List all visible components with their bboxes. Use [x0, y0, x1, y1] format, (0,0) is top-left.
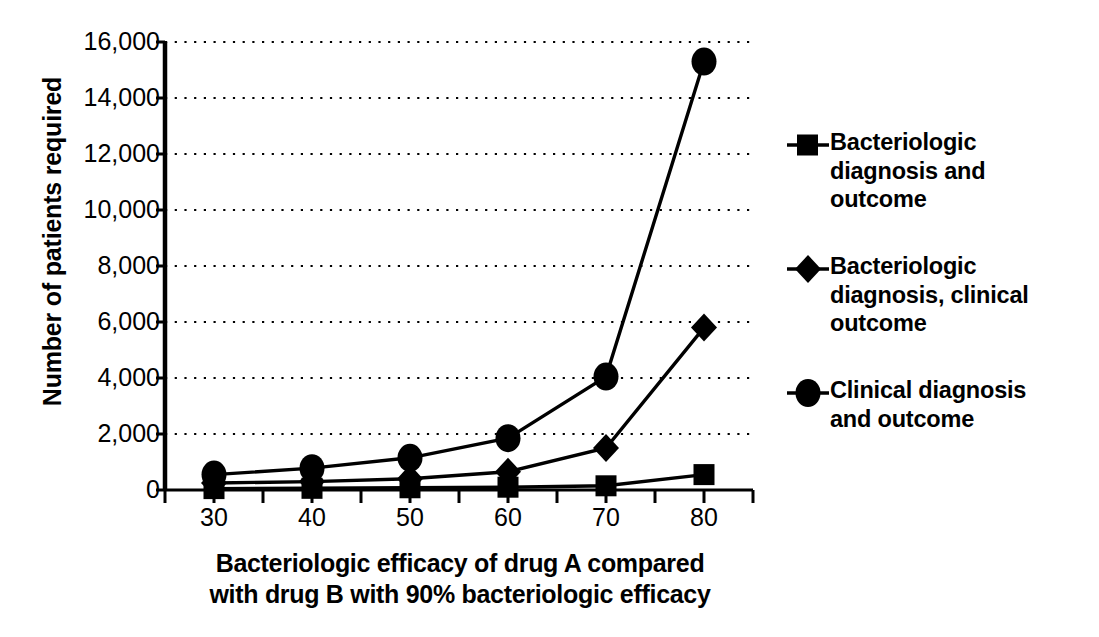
- legend-label-line: outcome: [830, 185, 985, 214]
- x-axis-title-line-2: with drug B with 90% bacteriologic effic…: [120, 579, 800, 610]
- y-axis-tick-label: 2,000: [50, 421, 160, 446]
- legend-label-line: and outcome: [830, 405, 1026, 434]
- data-point-circle: [594, 363, 619, 391]
- data-point-circle: [300, 454, 325, 482]
- y-axis-tick-label: 4,000: [50, 365, 160, 390]
- x-axis-tick-label: 50: [365, 505, 455, 530]
- legend-entry[interactable]: Bacteriologicdiagnosis, clinicaloutcome: [786, 252, 1086, 338]
- x-axis-tick-labels: 304050607080: [165, 505, 753, 541]
- legend-label-line: Bacteriologic: [830, 252, 1029, 281]
- data-point-circle: [496, 424, 521, 452]
- x-axis-title-line-1: Bacteriologic efficacy of drug A compare…: [120, 548, 800, 579]
- x-axis-title: Bacteriologic efficacy of drug A compare…: [120, 548, 800, 610]
- data-point-square: [694, 464, 715, 485]
- y-axis-tick-label: 6,000: [50, 309, 160, 334]
- y-axis-tick-labels: 02,0004,0006,0008,00010,00012,00014,0001…: [48, 0, 160, 637]
- series-lines: [214, 62, 704, 489]
- y-axis-tick-label: 10,000: [50, 197, 160, 222]
- legend-label-line: diagnosis, clinical: [830, 281, 1029, 310]
- x-axis-tick-label: 30: [169, 505, 259, 530]
- legend-marker-square-icon: [786, 130, 830, 160]
- data-point-circle: [398, 444, 423, 472]
- x-axis-tick-label: 70: [561, 505, 651, 530]
- chart-legend: Bacteriologicdiagnosis andoutcomeBacteri…: [786, 128, 1086, 471]
- plot-svg: [165, 42, 753, 490]
- y-axis-tick-label: 0: [50, 477, 160, 502]
- legend-label: Bacteriologicdiagnosis andoutcome: [830, 128, 985, 214]
- legend-label-line: outcome: [830, 309, 1029, 338]
- x-axis-tick-label: 80: [659, 505, 749, 530]
- y-axis-tick-label: 14,000: [50, 85, 160, 110]
- x-axis-tick-label: 60: [463, 505, 553, 530]
- y-axis-tick-label: 12,000: [50, 141, 160, 166]
- axis-ticks: [156, 42, 753, 503]
- legend-marker-diamond-icon: [786, 254, 830, 284]
- series-line-circle: [214, 62, 704, 475]
- data-point-circle: [692, 48, 717, 76]
- legend-label: Bacteriologicdiagnosis, clinicaloutcome: [830, 252, 1029, 338]
- legend-square-icon: [797, 135, 818, 156]
- legend-label-line: Clinical diagnosis: [830, 376, 1026, 405]
- x-axis-tick-label: 40: [267, 505, 357, 530]
- legend-diamond-icon: [795, 255, 821, 283]
- legend-entry[interactable]: Clinical diagnosisand outcome: [786, 376, 1086, 433]
- legend-marker-circle-icon: [786, 378, 830, 408]
- plot-area: [165, 42, 753, 490]
- legend-entry[interactable]: Bacteriologicdiagnosis andoutcome: [786, 128, 1086, 214]
- y-axis-tick-label: 8,000: [50, 253, 160, 278]
- legend-label: Clinical diagnosisand outcome: [830, 376, 1026, 433]
- y-axis-tick-label: 16,000: [50, 29, 160, 54]
- series-line-diamond: [214, 328, 704, 483]
- legend-circle-icon: [796, 379, 821, 407]
- data-point-circle: [202, 461, 227, 489]
- chart-figure: Number of patients required 02,0004,0006…: [0, 0, 1099, 637]
- legend-label-line: diagnosis and: [830, 157, 985, 186]
- data-point-square: [596, 475, 617, 496]
- legend-label-line: Bacteriologic: [830, 128, 985, 157]
